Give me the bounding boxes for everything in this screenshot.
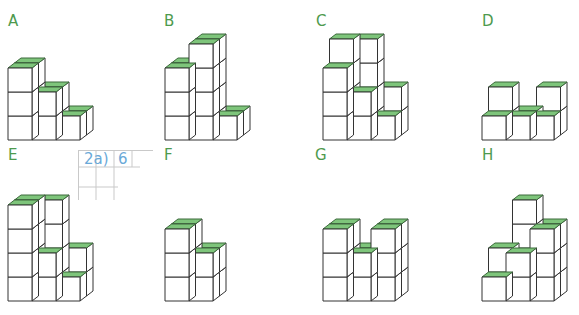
note-cell-1: 2a): [84, 150, 109, 168]
handwritten-grid-note: 2a) 6: [78, 150, 153, 200]
note-cell-2: 6: [118, 150, 128, 168]
